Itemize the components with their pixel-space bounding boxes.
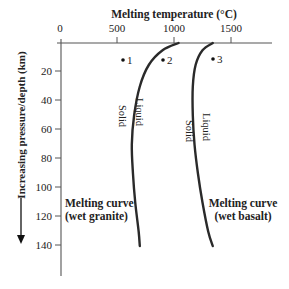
point-marker (121, 58, 125, 62)
svg-text:Melting curve: Melting curve (209, 197, 278, 210)
x-axis: 050010001500 (57, 22, 272, 43)
basalt-curve-label: Melting curve(wet basalt) (209, 197, 278, 223)
down-arrow-icon (17, 198, 25, 244)
svg-text:Melting curve: Melting curve (65, 197, 134, 210)
chart-title: Melting temperature (°C) (111, 8, 237, 21)
y-axis-label: Increasing pressure/depth (km) (15, 51, 28, 199)
liquid-label: Liquid (134, 98, 145, 127)
y-tick-label: 80 (41, 152, 53, 164)
svg-text:(wet granite): (wet granite) (65, 210, 128, 223)
point-label: 3 (217, 53, 223, 65)
granite-melting-curve (132, 43, 179, 246)
y-tick-label: 40 (41, 94, 53, 106)
x-tick-label: 1500 (220, 22, 243, 34)
x-tick-label: 500 (109, 22, 126, 34)
y-axis: 20406080100120140 (36, 39, 62, 276)
point-label: 1 (127, 54, 133, 66)
y-tick-label: 100 (36, 181, 53, 193)
y-tick-label: 60 (41, 123, 53, 135)
y-tick-label: 120 (36, 210, 53, 222)
point-label: 2 (167, 54, 173, 66)
basalt-melting-curve (193, 43, 213, 246)
liquid-label: Liquid (201, 113, 212, 142)
point-marker (161, 58, 165, 62)
svg-text:(wet basalt): (wet basalt) (214, 210, 271, 223)
solid-label: Solid (184, 120, 195, 143)
y-tick-label: 20 (41, 65, 53, 77)
x-tick-label: 0 (57, 22, 63, 34)
solid-label: Solid (117, 105, 128, 128)
x-tick-label: 1000 (163, 22, 186, 34)
y-tick-label: 140 (36, 239, 53, 251)
melting-curve-chart: Melting temperature (°C) 050010001500 20… (0, 0, 289, 289)
point-annotations: 123 (121, 53, 223, 66)
granite-curve-label: Melting curve(wet granite) (65, 197, 134, 223)
point-marker (211, 57, 215, 61)
melting-curves (132, 43, 213, 246)
